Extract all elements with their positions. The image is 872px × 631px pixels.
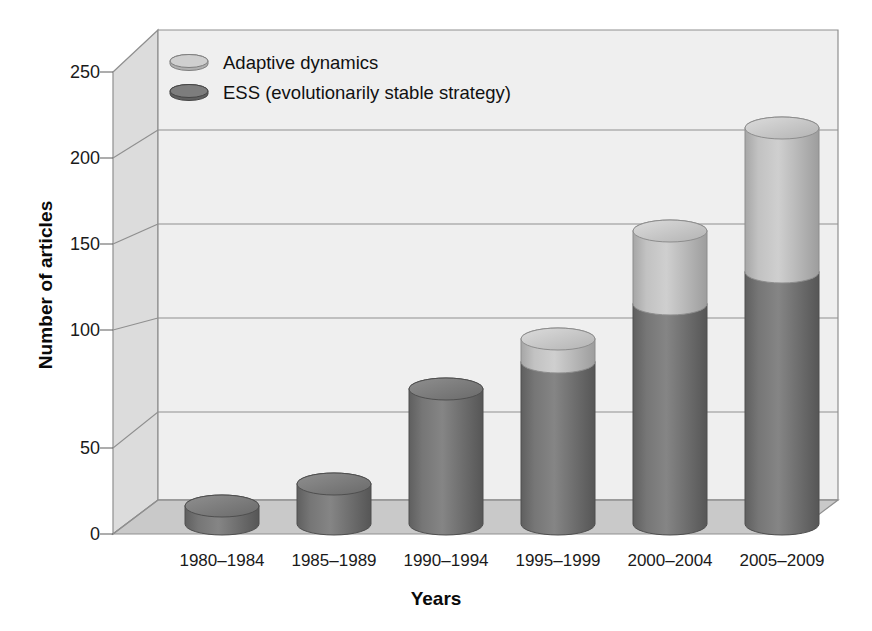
bar-1990-1994: [409, 378, 483, 535]
axis-left-wall: [113, 30, 158, 534]
y-tick-mark-100: [100, 330, 113, 331]
legend-item-adaptive-dynamics: Adaptive dynamics: [168, 48, 598, 78]
y-tick-label-200: 200: [40, 148, 100, 169]
y-tick-label-100: 100: [40, 320, 100, 341]
x-tick-label-1985-1989: 1985–1989: [269, 551, 399, 571]
bar-2005-2009: [745, 117, 819, 535]
bar-1980-1984: [185, 495, 259, 535]
y-tick-mark-0: [100, 534, 113, 535]
chart-container: Number of articles 250 200 150 100 50 0 …: [0, 0, 872, 631]
y-tick-label-150: 150: [40, 234, 100, 255]
legend-swatch-adaptive-dynamics: [168, 54, 210, 73]
legend: Adaptive dynamics ESS (evolutionarily st…: [168, 48, 598, 108]
y-tick-label-0: 0: [40, 524, 100, 545]
legend-label-adaptive-dynamics: Adaptive dynamics: [223, 52, 378, 74]
y-axis-tick-marks: [100, 0, 114, 631]
legend-swatch-ess: [168, 84, 210, 103]
bar-2000-2004: [633, 220, 707, 535]
x-tick-label-2000-2004: 2000–2004: [605, 551, 735, 571]
x-axis-title: Years: [0, 588, 872, 610]
y-tick-mark-150: [100, 244, 113, 245]
y-tick-mark-250: [100, 72, 113, 73]
bar-1985-1989: [297, 473, 371, 535]
x-tick-label-2005-2009: 2005–2009: [717, 551, 847, 571]
legend-item-ess: ESS (evolutionarily stable strategy): [168, 78, 598, 108]
y-tick-mark-50: [100, 448, 113, 449]
x-tick-label-1980-1984: 1980–1984: [157, 551, 287, 571]
y-tick-label-250: 250: [40, 62, 100, 83]
legend-label-ess: ESS (evolutionarily stable strategy): [223, 82, 511, 104]
x-tick-label-1995-1999: 1995–1999: [493, 551, 623, 571]
x-tick-label-1990-1994: 1990–1994: [381, 551, 511, 571]
bar-1995-1999: [521, 328, 595, 535]
y-tick-mark-200: [100, 158, 113, 159]
y-axis-ticks: 250 200 150 100 50 0: [34, 0, 100, 631]
y-tick-label-50: 50: [40, 438, 100, 459]
